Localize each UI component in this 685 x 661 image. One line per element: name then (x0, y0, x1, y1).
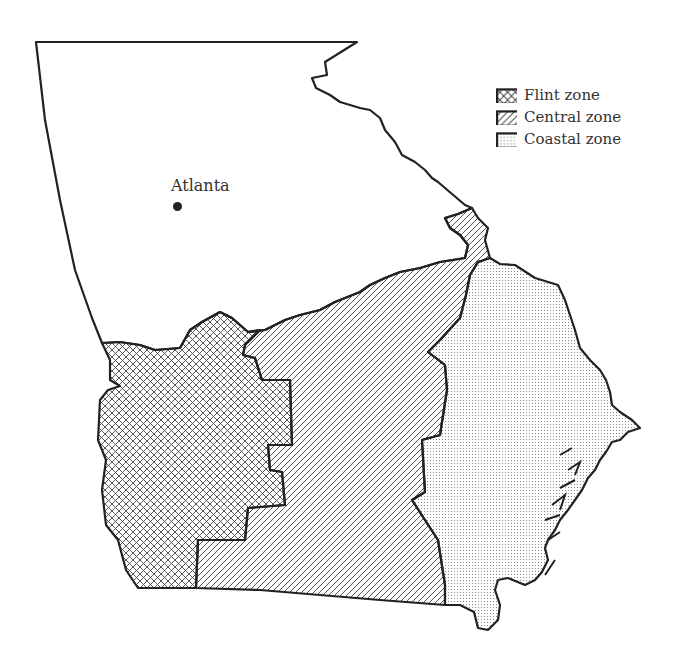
legend-label: Flint zone (524, 86, 600, 104)
dots-swatch-icon (496, 132, 517, 147)
map-legend: Flint zone Central zone Coastal zone (496, 84, 621, 150)
legend-item-flint: Flint zone (496, 84, 621, 106)
legend-label: Coastal zone (524, 130, 621, 148)
atlanta-label: Atlanta (171, 176, 230, 195)
legend-item-central: Central zone (496, 106, 621, 128)
legend-item-coastal: Coastal zone (496, 128, 621, 150)
diagonal-swatch-icon (496, 110, 517, 125)
atlanta-marker-icon (173, 202, 182, 211)
legend-label: Central zone (524, 108, 621, 126)
crosshatch-swatch-icon (496, 88, 517, 103)
